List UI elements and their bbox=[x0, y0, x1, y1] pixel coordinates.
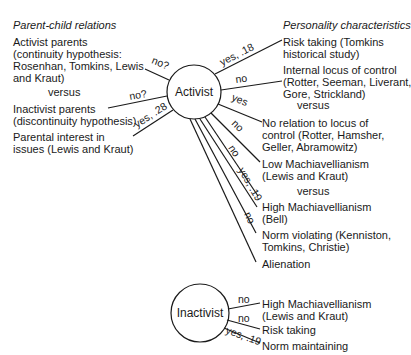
edge-label: no bbox=[230, 117, 247, 134]
edge-label: no bbox=[235, 71, 248, 85]
edge-label: no? bbox=[150, 54, 171, 72]
inactivist-label: Inactivist bbox=[177, 306, 224, 320]
edge-internal-locus bbox=[221, 81, 282, 90]
edge-label: no bbox=[226, 142, 243, 159]
edge-label: no? bbox=[128, 87, 147, 102]
edge-high-mach bbox=[200, 119, 257, 207]
edge-label: no bbox=[238, 293, 250, 305]
edge-label: no bbox=[238, 312, 250, 324]
edge-label: yes bbox=[230, 91, 250, 108]
activist-label: Activist bbox=[175, 85, 214, 99]
edge-label: yes, .19 bbox=[224, 324, 263, 348]
